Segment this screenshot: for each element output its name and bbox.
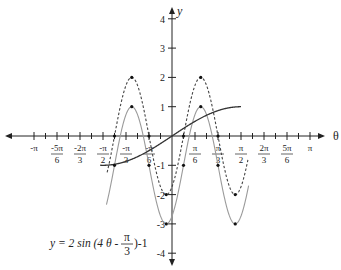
y-axis-down-arrow-icon [169, 259, 175, 266]
x-tick-label-num: 5π [282, 143, 292, 153]
svg-text:y = 2 sin (4 θ -: y = 2 sin (4 θ - [49, 237, 119, 250]
y-tick-label: 2 [160, 72, 165, 83]
equation-lhs: y = 2 sin (4 θ - [49, 237, 119, 250]
key-point-dot [199, 76, 202, 79]
equation-frac-num: π [124, 231, 130, 243]
key-point-dot [165, 222, 168, 225]
x-tick-label-num: -π [99, 143, 107, 153]
y-tick-label: 3 [160, 43, 165, 54]
x-tick-label-den: 6 [55, 155, 60, 165]
x-tick-label-num: 2π [259, 143, 269, 153]
y-tick-label: 4 [160, 14, 165, 25]
x-axis-right-arrow-icon [318, 133, 325, 139]
x-tick-label-den: 2 [239, 155, 244, 165]
key-point-dot [130, 76, 133, 79]
key-point-dot [147, 134, 150, 137]
key-point-dot [234, 222, 237, 225]
y-tick-label: -3 [157, 219, 165, 230]
x-tick-label-den: 3 [262, 155, 267, 165]
light-solid-curve [106, 107, 248, 224]
key-point-dot [234, 193, 237, 196]
equation-frac-den: 3 [124, 245, 130, 257]
chart: θ y -π-5π6-2π3-π2-π3-π6π6π3π22π35π6π 432… [0, 0, 341, 270]
key-point-dot [113, 164, 116, 167]
y-tick-label: -1 [157, 160, 165, 171]
key-point-dot [165, 193, 168, 196]
key-point-dot [216, 134, 219, 137]
x-tick-label-num: -π [122, 143, 130, 153]
y-axis-label: y [176, 4, 183, 18]
key-point-dot [130, 105, 133, 108]
key-point-dot [147, 164, 150, 167]
x-tick-label-num: -2π [74, 143, 86, 153]
equation-rhs: )-1 [134, 237, 148, 250]
key-point-dot [199, 105, 202, 108]
key-point-dot [113, 134, 116, 137]
x-axis-label: θ [333, 129, 339, 143]
key-point-dot [182, 134, 185, 137]
axes: θ y [5, 4, 339, 266]
x-tick-label-num: π [193, 143, 198, 153]
y-tick-label: 1 [160, 102, 165, 113]
x-tick-label: π [308, 143, 313, 153]
x-tick-label-den: 2 [101, 155, 106, 165]
equation-label: y = 2 sin (4 θ - π 3 )-1 [49, 231, 148, 257]
x-tick-label-den: 6 [285, 155, 290, 165]
y-axis-up-arrow-icon [169, 7, 175, 14]
x-tick-label: -π [30, 143, 38, 153]
x-tick-label-den: 3 [78, 155, 83, 165]
x-tick-label-num: -5π [51, 143, 63, 153]
x-axis-left-arrow-icon [5, 133, 12, 139]
key-point-dot [182, 164, 185, 167]
x-tick-label-num: π [239, 143, 244, 153]
key-point-dot [216, 164, 219, 167]
x-tick-label-den: 6 [193, 155, 198, 165]
y-tick-label: -4 [157, 248, 165, 259]
y-tick-label: -2 [157, 190, 165, 201]
